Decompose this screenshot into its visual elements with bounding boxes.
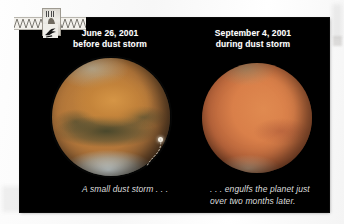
- annotation-left-text: A small dust storm . . .: [82, 184, 168, 194]
- annotation-right-line1: . . . engulfs the planet just: [210, 184, 310, 194]
- caption-left-date: June 26, 2001: [82, 28, 139, 38]
- caption-right-panel: September 4, 2001 during dust storm: [188, 28, 318, 50]
- artifact-bars-icon: [46, 11, 56, 17]
- figure-panel: June 26, 2001 before dust storm Septembe…: [20, 18, 329, 212]
- annotation-left: A small dust storm . . .: [82, 184, 198, 196]
- scan-smudge: [332, 4, 342, 38]
- mars-during-image: [196, 58, 318, 180]
- scanned-page: June 26, 2001 before dust storm Septembe…: [0, 0, 344, 224]
- caption-right-condition: during dust storm: [188, 39, 318, 50]
- caption-right-date: September 4, 2001: [215, 28, 291, 38]
- leader-line-icon: [146, 138, 172, 172]
- caption-left-condition: before dust storm: [48, 39, 172, 50]
- annotation-right-line2: over two months later.: [210, 196, 296, 206]
- scan-speck: [333, 36, 342, 46]
- mars-globe-during: [202, 63, 312, 173]
- caption-left-panel: June 26, 2001 before dust storm: [48, 28, 172, 50]
- annotation-right: . . . engulfs the planet just over two m…: [210, 184, 329, 207]
